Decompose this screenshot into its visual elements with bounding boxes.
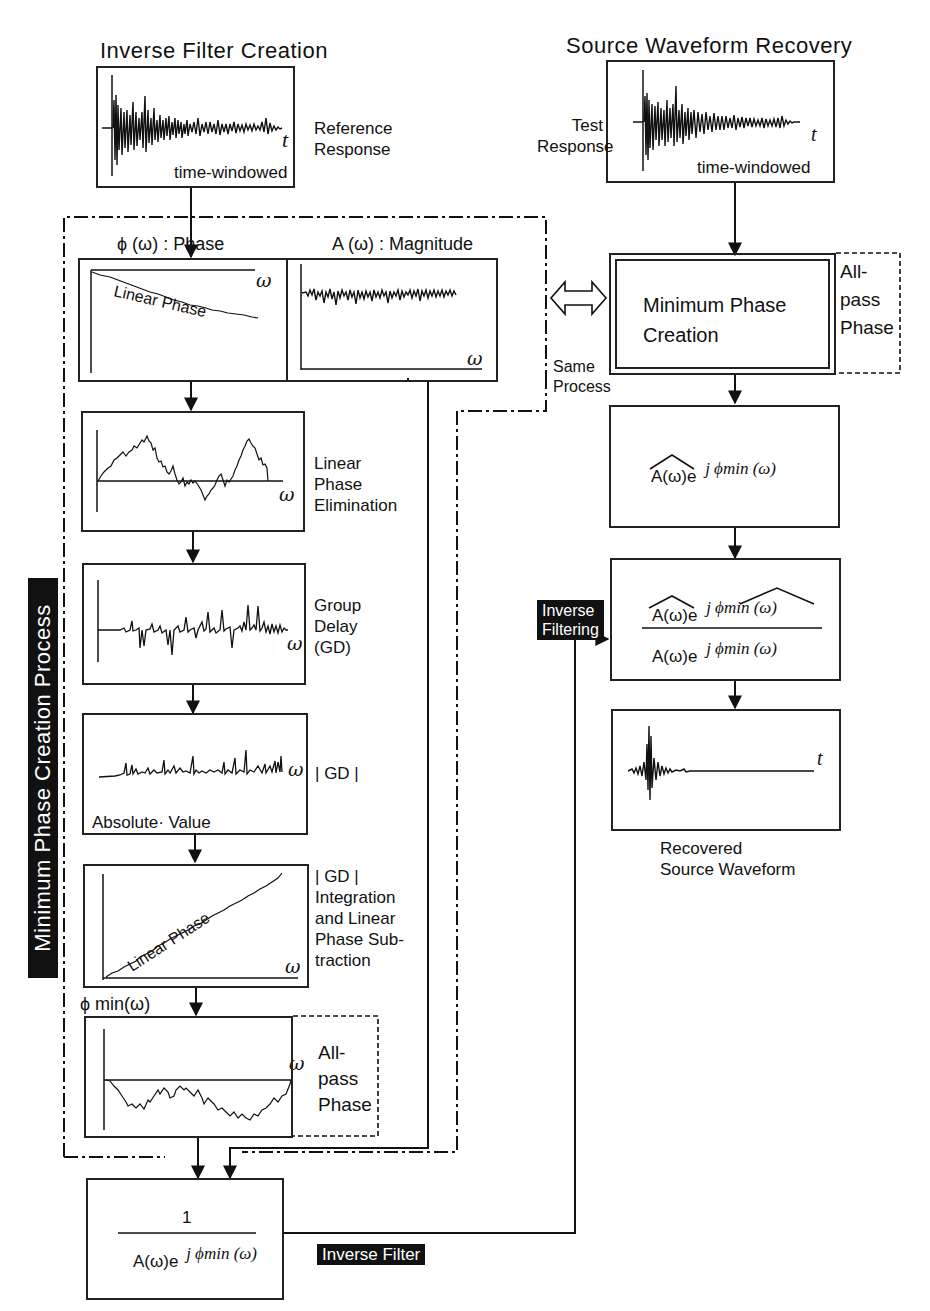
same-process-arrow-icon [551,282,606,314]
recovered-waveform-box [611,709,841,831]
minimum-phase-creation-process-label: Minimum Phase Creation Process [28,578,58,978]
phi-min-allpass-label: All- pass Phase [318,1040,372,1118]
inverse-filter-denominator: A(ω)e j ϕmin (ω) [133,1252,257,1272]
phi-min-box [84,1016,293,1138]
inverse-filtering-numerator: A(ω)e j ϕmin (ω) [652,606,777,626]
phase-magnitude-box [78,258,498,382]
magnitude-header: A (ω) : Magnitude [332,234,473,255]
phi-min-header: ϕ min(ω) [80,994,150,1015]
group-delay-box [82,563,306,685]
inverse-filter-numerator: 1 [182,1208,191,1228]
integration-label: | GD | Integration and Linear Phase Sub-… [315,866,404,971]
integration-box [83,864,309,988]
absolute-value-label: Absolute· Value [92,812,211,833]
same-process-label: Same Process [553,357,611,397]
allpass-phase-label: All- pass Phase [840,258,894,342]
reference-window-label: time-windowed [174,162,287,183]
group-delay-label: Group Delay (GD) [314,595,361,658]
estimated-spectrum-equation: A(ω)e j ϕmin (ω) [651,467,776,487]
phase-magnitude-divider [286,258,288,382]
recovered-waveform-label: Recovered Source Waveform [660,838,795,880]
phase-header: ϕ (ω) : Phase [117,234,224,255]
minimum-phase-creation-label: Minimum Phase Creation [643,290,786,350]
linear-phase-elimination-box [81,411,305,532]
linear-phase-elimination-label: Linear Phase Elimination [314,453,397,516]
inverse-filtering-denominator: A(ω)e j ϕmin (ω) [652,647,777,667]
reference-response-label: Reference Response [314,118,392,160]
test-response-label: Test Response [537,115,603,157]
abs-gd-label: | GD | [315,763,359,784]
inverse-filter-tag: Inverse Filter [317,1244,425,1265]
inverse-filter-box [86,1178,284,1300]
test-window-label: time-windowed [697,157,810,178]
inverse-filtering-tag: Inverse Filtering [537,600,604,640]
